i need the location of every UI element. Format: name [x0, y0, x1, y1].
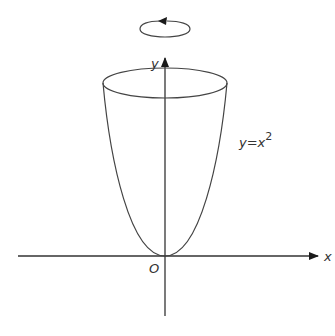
- curve-equation-label: y=x2: [238, 130, 272, 150]
- y-axis-label: y: [150, 56, 159, 71]
- revolution-diagram: y x O y=x2: [0, 0, 335, 336]
- x-axis-label: x: [323, 249, 332, 264]
- origin-label: O: [149, 261, 159, 276]
- curve-equation-base: y=x: [238, 135, 266, 150]
- rotation-arrow-icon: [140, 17, 190, 37]
- curve-equation-exponent: 2: [265, 130, 272, 143]
